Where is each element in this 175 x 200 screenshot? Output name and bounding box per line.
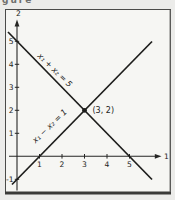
x-axis-label: 1: [164, 152, 169, 161]
x-tick-label: 4: [105, 160, 110, 169]
x-tick-label: 3: [82, 160, 87, 169]
page-background: gure 2 1 1 2 3 4 5: [0, 0, 175, 200]
x-tick-label: 2: [60, 160, 65, 169]
y-tick-label: 4: [9, 60, 14, 69]
intersection-point: [82, 108, 87, 113]
y-tick-label: 3: [9, 83, 14, 92]
intersection-point-label: (3, 2): [93, 106, 115, 115]
x-tick-label: 5: [127, 160, 132, 169]
y-tick-label: 2: [9, 106, 14, 115]
graph-figure: 2 1 1 2 3 4 5 5 4: [0, 0, 175, 200]
y-tick-label: 5: [9, 37, 14, 46]
x-tick-label: 1: [37, 160, 42, 169]
y-axis-label: 2: [16, 9, 21, 18]
y-neg-tick-label: -1: [6, 175, 14, 184]
y-tick-label: 1: [9, 129, 14, 138]
